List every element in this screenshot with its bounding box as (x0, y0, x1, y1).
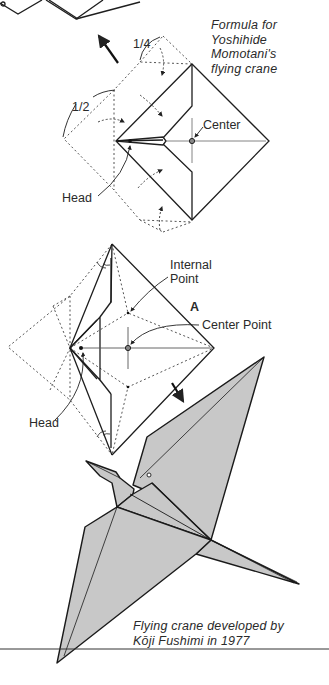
fraction-quarter-label: 1/4 (133, 37, 150, 51)
step-arrow-up-icon (99, 36, 118, 63)
center-marker (189, 138, 194, 143)
head-label-1: Head (62, 191, 92, 205)
formula-caption-line-2: Yoshihide (211, 33, 277, 48)
formula-caption: Formula for Yoshihide Momotani's flying … (211, 18, 277, 76)
formula-caption-line-1: Formula for (211, 18, 277, 33)
center-point-label: Center Point (202, 318, 271, 332)
internal-point-label: Internal Point (170, 258, 212, 286)
finished-flying-crane (57, 357, 299, 663)
point-a-label: A (190, 300, 199, 314)
crane-caption: Flying crane developed by Kōji Fushimi i… (133, 619, 284, 648)
fraction-half-label: 1/2 (72, 100, 89, 114)
formula-caption-line-4: flying crane (211, 62, 277, 77)
crane-caption-line-1: Flying crane developed by (133, 619, 284, 634)
previous-step-fragment (0, 0, 140, 19)
head-label-2: Head (29, 416, 59, 430)
center-label: Center (203, 118, 241, 132)
origami-diagram (0, 0, 329, 685)
crane-caption-line-2: Kōji Fushimi in 1977 (133, 634, 284, 649)
formula-caption-line-3: Momotani's (211, 47, 277, 62)
